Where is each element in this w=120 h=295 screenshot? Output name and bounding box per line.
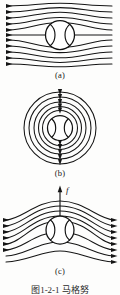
outflow-arrowheads-c <box>111 218 118 264</box>
ball-b <box>48 116 73 141</box>
ball-c <box>46 216 74 244</box>
panel-a: (a) <box>0 0 120 88</box>
panel-b-label: (b) <box>0 168 120 179</box>
panel-c-label: (c) <box>0 266 120 277</box>
magnus-effect-figure: (a) <box>0 0 120 295</box>
panel-b-diagram <box>0 88 120 168</box>
panel-b: (b) <box>0 88 120 184</box>
inflow-arrowheads-c <box>3 218 10 252</box>
inflow-arrowheads-a <box>6 4 13 66</box>
figure-caption-row: 图1-2-1 马格努 <box>0 285 120 295</box>
ball-a <box>46 21 75 50</box>
panel-a-label: (a) <box>0 70 120 81</box>
panel-c: f <box>0 184 120 282</box>
panel-c-diagram: f <box>0 184 120 266</box>
figure-caption: 图1-2-1 马格努 <box>0 285 120 295</box>
force-label-f: f <box>66 185 70 195</box>
panel-a-diagram <box>0 0 120 70</box>
